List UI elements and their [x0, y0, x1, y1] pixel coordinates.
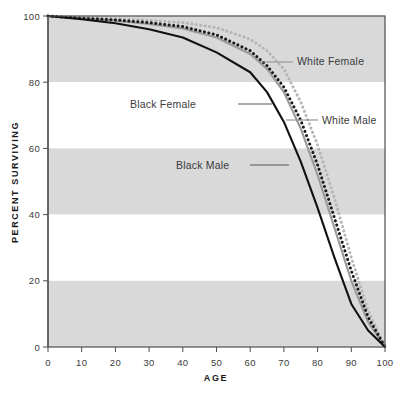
chart-svg: 020406080100 0102030405060708090100 AGE …: [0, 0, 409, 399]
band-0-20: [48, 281, 385, 347]
y-tick-label: 20: [29, 275, 40, 286]
annotation-label: White Male: [322, 114, 377, 126]
x-tick-label: 100: [377, 357, 394, 368]
x-tick-label: 30: [144, 357, 155, 368]
x-tick-label: 70: [278, 357, 289, 368]
x-tick-label: 20: [110, 357, 121, 368]
x-tick-label: 60: [245, 357, 256, 368]
annotation-label: Black Male: [176, 159, 229, 171]
y-tick-label: 60: [29, 143, 40, 154]
x-tick-label: 50: [211, 357, 222, 368]
x-tick-label: 0: [45, 357, 51, 368]
x-axis-title: AGE: [204, 373, 228, 383]
annotation-label: Black Female: [130, 98, 196, 110]
x-tick-label: 90: [346, 357, 357, 368]
x-tick-label: 40: [177, 357, 188, 368]
y-tick-label: 100: [23, 11, 40, 22]
y-tick-label: 80: [29, 77, 40, 88]
y-axis-title: PERCENT SURVIVING: [10, 121, 20, 243]
y-axis: 020406080100: [23, 11, 48, 353]
survival-curve-chart: 020406080100 0102030405060708090100 AGE …: [0, 0, 409, 399]
x-axis: 0102030405060708090100: [45, 347, 393, 368]
x-tick-label: 80: [312, 357, 323, 368]
x-tick-label: 10: [76, 357, 87, 368]
y-tick-label: 0: [34, 342, 40, 353]
y-tick-label: 40: [29, 209, 40, 220]
annotation-label: White Female: [297, 55, 364, 67]
band-80-100: [48, 16, 385, 82]
